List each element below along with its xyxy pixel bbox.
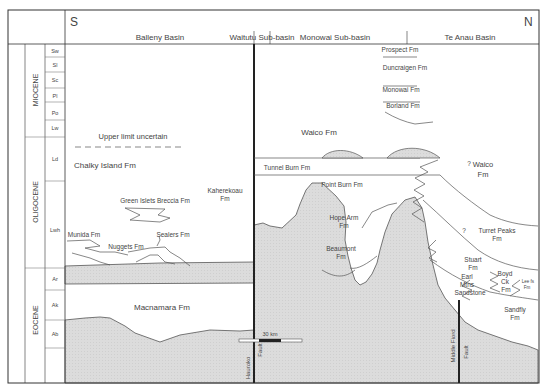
stage-ak: Ak <box>52 302 59 308</box>
basin-header-waitutu: Waitutu Sub-basin <box>229 33 294 42</box>
boyd-ck-label-1: Boyd <box>498 270 513 278</box>
hauroko-fault-label-1: Hauroko <box>245 356 251 379</box>
epoch-eocene: EOCENE <box>32 305 39 335</box>
borland-fm-label: Borland Fm <box>386 102 420 109</box>
stage-ab: Ab <box>52 331 59 337</box>
stuart-label-2: Fm <box>468 264 477 271</box>
middle-fiord-fault-label-1: Middle Fiord <box>450 329 456 362</box>
macnamara-fm-label: Macnamara Fm <box>134 303 190 312</box>
question-mark-1: ? <box>467 160 471 167</box>
upper-limit-label: Upper limit uncertain <box>99 132 168 141</box>
boyd-ck-label-2: Ck <box>501 278 510 285</box>
stage-ld: Ld <box>52 156 58 162</box>
stage-ar: Ar <box>52 276 58 282</box>
beaumont-label-1: Beaumont <box>326 245 356 252</box>
beaumont-label-2: Fm <box>336 253 345 260</box>
stage-sc: Sc <box>52 77 59 83</box>
stage-lw: Lw <box>51 125 58 131</box>
green-islets-label: Green Islets Breccia Fm <box>120 197 190 204</box>
turret-peaks-label-2: Fm <box>492 235 501 242</box>
south-label: S <box>70 15 78 29</box>
turret-peaks-label-1: Turret Peaks <box>479 227 517 234</box>
earl-mtns-label-1: Earl <box>461 273 473 280</box>
epoch-oligocene: OLIGOCENE <box>32 181 39 223</box>
middle-fiord-fault-label-2: Fault <box>463 345 469 359</box>
basin-header-monowai: Monowai Sub-basin <box>300 33 370 42</box>
epoch-miocene: MIOCENE <box>32 73 39 106</box>
stratigraphic-diagram: S N Balleny Basin Waitutu Sub-basin Mono… <box>0 0 543 386</box>
munida-fm-label: Munida Fm <box>68 231 101 238</box>
kaherekoau-label-2: Fm <box>220 195 229 202</box>
nuggets-fm-label: Nuggets Fm <box>108 243 143 251</box>
stage-sw: Sw <box>51 48 59 54</box>
point-burn-fm-label: Point Burn Fm <box>321 181 363 188</box>
waico-te-anau-label-1: Waico <box>473 160 494 169</box>
earl-mtns-label-3: Sandstone <box>454 289 485 296</box>
earl-mtns-label-2: Mtns <box>460 281 475 288</box>
stage-sl: Sl <box>53 62 58 68</box>
question-mark-2: ? <box>462 227 466 234</box>
monowai-fm-label: Monowai Fm <box>382 86 419 93</box>
prospect-fm-label: Prospect Fm <box>382 46 419 54</box>
stage-po: Po <box>52 110 59 116</box>
duncraigen-fm-label: Duncraigen Fm <box>383 64 427 72</box>
lee-fs-label-1: Lee fs <box>522 279 535 284</box>
boyd-ck-label-3: Fm <box>501 286 510 293</box>
stage-pl: Pl <box>53 93 58 99</box>
sandfly-label-1: Sandfly <box>504 306 526 314</box>
waico-te-anau-label-2: Fm <box>478 170 489 179</box>
kaherekoau-label-1: Kaherekoau <box>207 187 242 194</box>
chalky-island-fm-label: Chalky Island Fm <box>74 161 136 170</box>
basin-header-balleny: Balleny Basin <box>136 33 184 42</box>
tunnel-burn-fm-label: Tunnel Burn Fm <box>264 164 310 171</box>
basin-header-te-anau: Te Anau Basin <box>444 33 495 42</box>
hauroko-fault-label-2: Fault <box>257 343 263 357</box>
lee-fs-label-2: Fm <box>524 285 531 290</box>
hope-arm-label-2: Fm <box>339 222 348 229</box>
scale-bar-label: 30 km <box>263 331 278 337</box>
stage-lwh: Lwh <box>50 227 60 233</box>
hope-arm-label-1: Hope Arm <box>330 214 359 222</box>
sealers-fm-label: Sealers Fm <box>156 231 189 238</box>
sandfly-label-2: Fm <box>510 314 519 321</box>
north-label: N <box>524 15 533 29</box>
waico-fm-label: Waico Fm <box>301 128 337 137</box>
stuart-label-1: Stuart <box>464 256 482 263</box>
